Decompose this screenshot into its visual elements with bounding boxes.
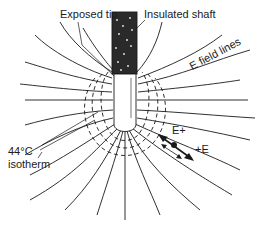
label-isotherm-temp: 44°C (8, 145, 33, 157)
label-e-plus: E+ (172, 124, 186, 136)
label-insulated-shaft: Insulated shaft (144, 8, 216, 20)
label-exposed-tip: Exposed tip (60, 8, 117, 20)
diagram-graphic (0, 0, 259, 230)
exposed-tip (114, 74, 136, 132)
electrode-field-diagram: Exposed tip Insulated shaft E field line… (0, 0, 259, 230)
insulated-shaft (112, 12, 137, 74)
label-plus-e: +E (195, 143, 209, 155)
label-isotherm-word: isotherm (8, 158, 50, 170)
